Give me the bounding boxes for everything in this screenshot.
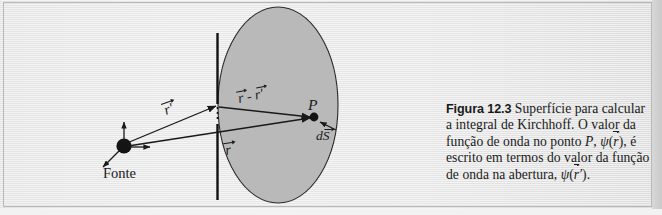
page-right-edge-band (652, 0, 662, 215)
label-vector-r-prime: r' (160, 98, 179, 118)
page-bottom-edge-band (0, 209, 662, 215)
figure-caption: Figura 12.3 Superfície para calcular a i… (446, 101, 652, 183)
source-point-group (103, 122, 150, 167)
label-source-fonte: Fonte (103, 165, 136, 181)
figure-number-label: Figura 12.3 (446, 102, 511, 116)
label-area-element-text: dS (316, 128, 330, 143)
field-point-P-dot (310, 113, 319, 122)
label-field-point-P: P (307, 96, 318, 113)
integration-surface-ellipse (218, 7, 338, 203)
figure-container: r' r r - r' P dS Fonte Figura 12.3 (0, 0, 662, 215)
r-prime-vector-bar-tip (170, 98, 175, 103)
label-vector-r-prime-text: r' (162, 99, 177, 117)
